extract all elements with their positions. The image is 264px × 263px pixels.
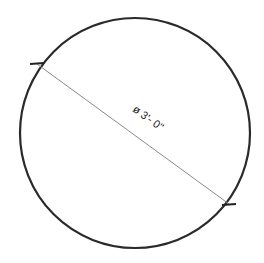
diameter-dimension-line bbox=[37, 64, 229, 204]
diameter-label: ø 3'- 0" bbox=[131, 103, 166, 133]
dimension-tick-right bbox=[222, 204, 236, 205]
dimension-tick-left bbox=[30, 63, 44, 64]
circle-diagram: ø 3'- 0" bbox=[0, 0, 264, 263]
circle-outline bbox=[20, 18, 250, 248]
